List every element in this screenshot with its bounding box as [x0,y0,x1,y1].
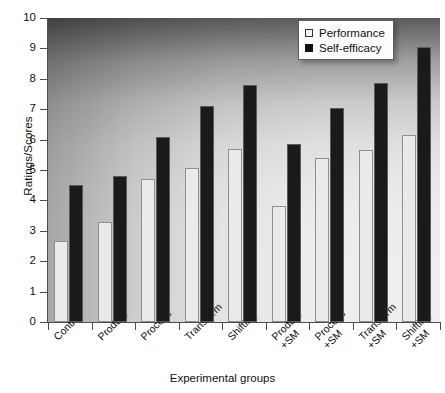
bar-chart-figure: Ratings/Scores 012345678910 ControlProdu… [0,0,445,393]
y-tick-mark [40,200,48,201]
bar-self-efficacy [330,108,344,322]
x-tick-mark [92,322,93,330]
legend-label-performance: Performance [319,27,385,39]
bar-self-efficacy [113,176,127,322]
x-tick-mark [179,322,180,330]
y-tick-label: 2 [14,255,36,267]
x-tick-mark [353,322,354,330]
y-tick-label: 6 [14,134,36,146]
y-tick-label: 4 [14,194,36,206]
y-tick-mark [40,18,48,19]
y-tick-mark [40,322,48,323]
x-tick-mark [135,322,136,330]
y-tick-label: 3 [14,225,36,237]
x-tick-mark [266,322,267,330]
bar-performance [228,149,242,322]
chart-legend: Performance Self-efficacy [298,20,394,60]
bar-performance [185,168,199,322]
y-tick-label: 9 [14,42,36,54]
bar-self-efficacy [200,106,214,322]
y-tick-label: 0 [14,316,36,328]
x-tick-mark [309,322,310,330]
y-tick-label: 10 [14,12,36,24]
y-tick-mark [40,170,48,171]
bar-performance [402,135,416,322]
y-tick-mark [40,292,48,293]
legend-item-self-efficacy: Self-efficacy [305,40,385,55]
bar-performance [315,158,329,322]
bar-self-efficacy [287,144,301,322]
y-tick-label: 7 [14,103,36,115]
bar-performance [54,241,68,322]
y-tick-mark [40,109,48,110]
y-tick-label: 5 [14,164,36,176]
open-square-icon [305,29,313,37]
bar-performance [359,150,373,322]
y-tick-mark [40,48,48,49]
y-tick-mark [40,261,48,262]
x-tick-mark [396,322,397,330]
bar-self-efficacy [69,185,83,322]
y-tick-mark [40,231,48,232]
y-tick-label: 8 [14,73,36,85]
x-tick-mark [222,322,223,330]
bar-self-efficacy [374,83,388,322]
y-tick-label: 1 [14,286,36,298]
y-tick-mark [40,140,48,141]
x-axis-title: Experimental groups [0,372,445,384]
bar-performance [98,222,112,322]
bar-self-efficacy [243,85,257,322]
bar-performance [141,179,155,322]
legend-label-self-efficacy: Self-efficacy [319,42,381,54]
bar-performance [272,206,286,322]
legend-item-performance: Performance [305,25,385,40]
x-tick-mark [440,322,441,330]
x-tick-mark [48,322,49,330]
bar-self-efficacy [156,137,170,322]
bar-self-efficacy [417,47,431,322]
y-tick-mark [40,79,48,80]
filled-square-icon [305,44,313,52]
